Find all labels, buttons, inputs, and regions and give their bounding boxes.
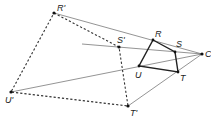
point-r <box>152 39 155 42</box>
label-t-prime: T' <box>130 108 137 118</box>
point-s-prime <box>117 45 120 48</box>
image-quadrilateral <box>11 13 128 106</box>
original-quadrilateral <box>139 40 178 72</box>
label-u: U <box>135 70 142 80</box>
label-r-prime: R' <box>57 3 65 13</box>
rays <box>11 13 202 106</box>
label-s-prime: S' <box>117 35 125 45</box>
label-u-prime: U' <box>5 95 13 105</box>
point-u-prime <box>9 90 12 93</box>
ray-c-t <box>128 54 202 106</box>
label-r: R <box>155 29 162 39</box>
label-s: S <box>176 39 182 49</box>
point-u <box>138 65 141 68</box>
ray-c-u <box>11 54 202 92</box>
label-t: T <box>180 73 187 83</box>
point-r-prime <box>52 11 55 14</box>
point-s <box>174 51 177 54</box>
point-t <box>177 71 180 74</box>
dilation-diagram: C R S T U R' S' T' U' <box>0 0 211 121</box>
point-c <box>200 52 203 55</box>
label-c: C <box>205 49 211 59</box>
